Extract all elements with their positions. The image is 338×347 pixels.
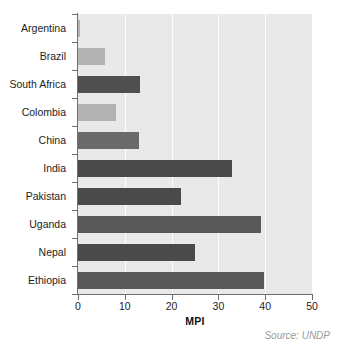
y-axis-tick bbox=[72, 210, 77, 211]
x-axis-tick-label: 40 bbox=[245, 300, 285, 312]
bar bbox=[78, 48, 105, 65]
y-axis-tick-label: Argentina bbox=[0, 22, 66, 34]
y-axis-tick-label: India bbox=[0, 162, 66, 174]
y-axis-tick bbox=[72, 98, 77, 99]
bar-row bbox=[78, 70, 140, 98]
y-axis-tick bbox=[72, 182, 77, 183]
y-axis-tick-label: China bbox=[0, 134, 66, 146]
y-axis-tick-label: Ethiopia bbox=[0, 274, 66, 286]
x-axis-tick-label: 50 bbox=[292, 300, 332, 312]
bar bbox=[78, 244, 195, 261]
y-axis-tick-label: Uganda bbox=[0, 218, 66, 230]
y-axis-tick-label: Pakistan bbox=[0, 190, 66, 202]
bar bbox=[78, 104, 116, 121]
bar-row bbox=[78, 182, 181, 210]
bar-row bbox=[78, 266, 264, 294]
y-axis-line bbox=[77, 13, 78, 295]
y-axis-tick-label: Colombia bbox=[0, 106, 66, 118]
bar-row bbox=[78, 154, 232, 182]
y-axis-tick bbox=[72, 154, 77, 155]
bar bbox=[78, 76, 140, 93]
x-axis-tick-label: 30 bbox=[198, 300, 238, 312]
bar bbox=[78, 272, 264, 289]
bar bbox=[78, 188, 181, 205]
x-axis-tick-label: 0 bbox=[58, 300, 98, 312]
y-axis-tick-label: Nepal bbox=[0, 246, 66, 258]
y-axis-tick bbox=[72, 126, 77, 127]
x-axis-title: MPI bbox=[78, 315, 312, 327]
x-axis-tick-label: 10 bbox=[105, 300, 145, 312]
gridline bbox=[265, 14, 266, 294]
bar bbox=[78, 216, 261, 233]
bar bbox=[78, 132, 139, 149]
bar-row bbox=[78, 42, 105, 70]
y-axis-tick bbox=[72, 238, 77, 239]
bar-chart-figure: MPI Source: UNDP ArgentinaBrazilSouth Af… bbox=[0, 0, 338, 347]
x-axis-line bbox=[77, 294, 313, 295]
plot-area bbox=[78, 14, 312, 294]
bar-row bbox=[78, 238, 195, 266]
y-axis-tick bbox=[72, 14, 77, 15]
bar-row bbox=[78, 210, 261, 238]
x-axis-tick-label: 20 bbox=[152, 300, 192, 312]
y-axis-tick bbox=[72, 266, 77, 267]
y-axis-tick bbox=[72, 42, 77, 43]
bar-row bbox=[78, 98, 116, 126]
source-note: Source: UNDP bbox=[264, 330, 330, 341]
bar-row bbox=[78, 126, 139, 154]
bar bbox=[78, 20, 80, 37]
bar-row bbox=[78, 14, 80, 42]
y-axis-tick-label: South Africa bbox=[0, 78, 66, 90]
bar bbox=[78, 160, 232, 177]
y-axis-tick bbox=[72, 294, 77, 295]
y-axis-tick bbox=[72, 70, 77, 71]
y-axis-tick-label: Brazil bbox=[0, 50, 66, 62]
